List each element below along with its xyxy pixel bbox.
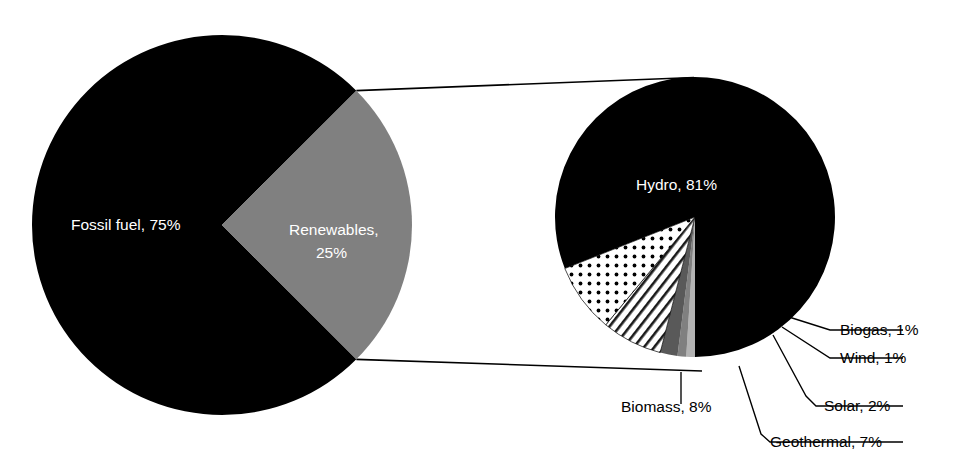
callout-label-solar: Solar, 2% <box>824 397 891 414</box>
primary-pie-group: Fossil fuel, 75% Renewables, 25% <box>32 35 412 415</box>
pie-of-pie-figure: Fossil fuel, 75% Renewables, 25% Hydro, … <box>0 0 965 474</box>
callout-label-geothermal: Geothermal, 7% <box>770 433 882 450</box>
primary-label-renewables-line2: 25% <box>316 244 347 261</box>
pie-of-pie-chart: Fossil fuel, 75% Renewables, 25% Hydro, … <box>0 0 965 474</box>
secondary-pie-group: Hydro, 81% <box>555 77 835 357</box>
callout-label-biomass: Biomass, 8% <box>621 398 712 415</box>
callout-label-wind: Wind, 1% <box>840 349 907 366</box>
primary-label-renewables-line1: Renewables, <box>289 221 379 238</box>
secondary-label-hydro: Hydro, 81% <box>636 176 717 193</box>
callout-label-biogas: Biogas, 1% <box>840 321 919 338</box>
primary-label-fossil-fuel: Fossil fuel, 75% <box>71 216 181 233</box>
